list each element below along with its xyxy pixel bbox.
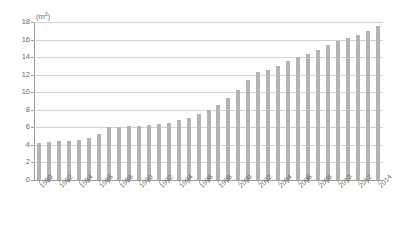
bar [296,57,300,180]
y-axis-tick-label: 0 [26,176,30,183]
bar [137,126,141,180]
bar [326,45,330,180]
y-axis-tick-group: 024681012141618 [0,22,32,180]
bar [286,61,290,180]
bar [187,118,191,180]
bar [376,26,380,180]
bar [316,50,320,180]
x-axis-label-group: 1980198219841986198819901992199419961998… [34,184,383,226]
y-axis-tick-label: 10 [22,88,30,95]
bar [216,105,220,180]
bar [177,120,181,180]
y-axis-unit-label: (m2) [36,10,50,21]
y-axis-tick-label: 14 [22,53,30,60]
y-axis-tick-label: 18 [22,18,30,25]
bar [37,143,41,180]
bar [366,31,370,180]
y-axis-tick-label: 4 [26,141,30,148]
bar-series [34,22,383,180]
bar [236,90,240,180]
y-axis-unit-text: (m2) [36,12,50,21]
bar [197,114,201,180]
bar [117,127,121,180]
y-axis-tick-label: 2 [26,158,30,165]
bar [276,66,280,180]
bar [336,41,340,180]
y-axis-tick-label: 6 [26,123,30,130]
bar [77,140,81,180]
bar [256,72,260,180]
bar [97,134,101,180]
bar [226,98,230,180]
y-axis-tick-label: 8 [26,106,30,113]
bar [346,38,350,180]
bar [266,70,270,180]
bar [306,54,310,180]
bar [57,141,61,180]
bar [246,80,250,180]
bar [157,124,161,180]
bar [207,110,211,180]
y-axis-tick-label: 16 [22,36,30,43]
y-axis-tick-label: 12 [22,71,30,78]
bar [356,35,360,180]
plot-area [34,22,383,180]
